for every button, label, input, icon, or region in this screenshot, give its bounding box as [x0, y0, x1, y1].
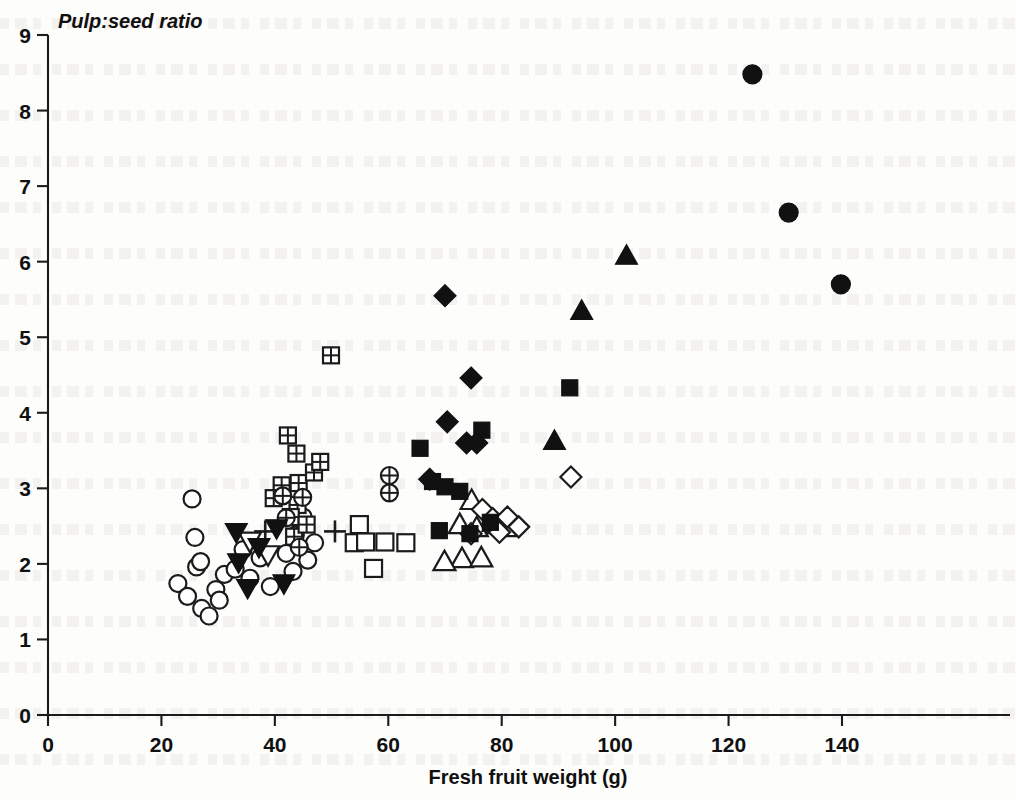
y-tick-label: 4 [19, 402, 31, 425]
marker-open-circle [211, 592, 228, 609]
data-markers [169, 65, 850, 625]
filled-square-glyph [431, 523, 447, 539]
x-tick-label: 120 [711, 733, 746, 756]
open-up-triangle-glyph [470, 547, 492, 567]
y-tick-label: 1 [19, 628, 31, 651]
marker-filled-diamond [434, 285, 456, 307]
filled-square-glyph [452, 483, 468, 499]
marker-open-circle [186, 529, 203, 546]
marker-filled-square [562, 380, 578, 396]
open-square-glyph [351, 516, 368, 533]
marker-open-square [397, 534, 414, 551]
filled-circle-glyph [743, 65, 762, 84]
filled-up-triangle-glyph [571, 300, 593, 320]
x-tick-label: 40 [263, 733, 286, 756]
marker-open-circle [201, 608, 218, 625]
open-square-glyph [397, 534, 414, 551]
open-square-glyph [376, 533, 393, 550]
marker-crossed-circle [381, 467, 398, 484]
axes: 9876543210 020406080100120140 [19, 24, 1010, 756]
marker-crossed-square [323, 347, 339, 363]
marker-filled-up-triangle [543, 430, 565, 450]
marker-filled-up-triangle [615, 245, 637, 265]
marker-open-up-triangle [433, 551, 455, 571]
filled-circle-glyph [779, 203, 798, 222]
filled-square-glyph [482, 514, 498, 530]
filled-square-glyph [562, 380, 578, 396]
y-tick-label: 6 [19, 251, 31, 274]
x-axis-title: Fresh fruit weight (g) [429, 766, 628, 788]
marker-open-square [357, 533, 374, 550]
filled-circle-glyph [831, 275, 850, 294]
y-tick-label: 9 [19, 24, 31, 47]
marker-crossed-square [299, 517, 315, 533]
y-tick-label: 0 [19, 704, 31, 727]
open-up-triangle-glyph [433, 551, 455, 571]
marker-open-square [351, 516, 368, 533]
y-axis-ticks [37, 35, 48, 715]
filled-up-triangle-glyph [543, 430, 565, 450]
open-square-glyph [365, 560, 382, 577]
y-tick-label: 7 [19, 175, 31, 198]
x-axis-tick-labels: 020406080100120140 [42, 733, 859, 756]
x-tick-label: 60 [377, 733, 400, 756]
open-circle-glyph [201, 608, 218, 625]
x-tick-label: 0 [42, 733, 54, 756]
marker-filled-down-triangle [237, 579, 259, 599]
y-tick-label: 2 [19, 553, 31, 576]
marker-open-up-triangle [451, 548, 473, 568]
open-circle-glyph [192, 553, 209, 570]
marker-open-circle [192, 553, 209, 570]
y-tick-label: 8 [19, 100, 31, 123]
filled-diamond-glyph [436, 411, 458, 433]
marker-filled-diamond [436, 411, 458, 433]
marker-open-circle [184, 490, 201, 507]
series-filled-circle [743, 65, 850, 294]
marker-plus [324, 520, 346, 542]
marker-crossed-circle [291, 539, 308, 556]
marker-open-square [376, 533, 393, 550]
series-filled-square [412, 380, 578, 542]
open-diamond-glyph [560, 467, 581, 488]
open-circle-glyph [211, 592, 228, 609]
open-square-glyph [357, 533, 374, 550]
marker-filled-circle [779, 203, 798, 222]
marker-crossed-circle [381, 484, 398, 501]
plot-canvas: 9876543210 020406080100120140 Pulp:seed … [0, 0, 1016, 800]
x-tick-label: 80 [490, 733, 513, 756]
open-up-triangle-glyph [451, 548, 473, 568]
series-open-diamond [461, 467, 582, 545]
marker-filled-square [482, 514, 498, 530]
marker-filled-square [462, 526, 478, 542]
marker-filled-circle [831, 275, 850, 294]
marker-filled-square [452, 483, 468, 499]
y-tick-label: 3 [19, 477, 31, 500]
marker-open-square [365, 560, 382, 577]
marker-filled-down-triangle [266, 520, 288, 540]
x-axis-ticks [48, 715, 842, 726]
x-tick-label: 140 [824, 733, 859, 756]
y-axis-tick-labels: 9876543210 [19, 24, 31, 727]
y-axis-title: Pulp:seed ratio [58, 10, 202, 32]
y-tick-label: 5 [19, 326, 31, 349]
open-circle-glyph [179, 588, 196, 605]
marker-crossed-square [288, 446, 304, 462]
marker-filled-circle [743, 65, 762, 84]
marker-open-up-triangle [470, 547, 492, 567]
series-open-square [346, 516, 415, 577]
filled-diamond-glyph [460, 367, 482, 389]
filled-square-glyph [412, 440, 428, 456]
filled-up-triangle-glyph [615, 245, 637, 265]
scatter-figure: 9876543210 020406080100120140 Pulp:seed … [0, 0, 1016, 800]
open-circle-glyph [184, 490, 201, 507]
marker-crossed-circle [274, 487, 291, 504]
marker-crossed-circle [294, 489, 311, 506]
marker-open-circle [179, 588, 196, 605]
marker-filled-diamond [460, 367, 482, 389]
series-filled-diamond [419, 285, 488, 491]
filled-down-triangle-glyph [237, 579, 259, 599]
marker-filled-up-triangle [571, 300, 593, 320]
marker-filled-square [431, 523, 447, 539]
x-tick-label: 100 [598, 733, 633, 756]
marker-crossed-square [280, 427, 296, 443]
